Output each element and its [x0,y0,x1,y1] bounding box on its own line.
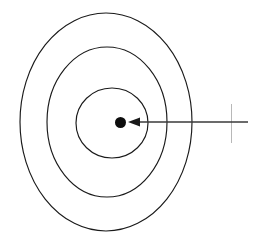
figure-canvas [0,0,256,245]
concentric-circles-diagram [0,0,256,245]
center-dot [115,117,126,128]
